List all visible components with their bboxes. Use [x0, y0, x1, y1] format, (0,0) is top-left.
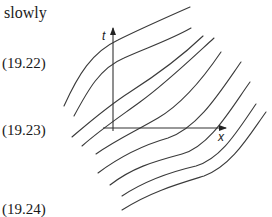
- x-axis-label: x: [217, 130, 225, 144]
- curve-8: [122, 104, 256, 196]
- curve-family: [64, 7, 266, 210]
- curve-2: [74, 28, 191, 116]
- curve-4: [82, 38, 214, 146]
- xt-diagram: t x: [0, 0, 272, 217]
- t-axis-label: t: [102, 29, 106, 43]
